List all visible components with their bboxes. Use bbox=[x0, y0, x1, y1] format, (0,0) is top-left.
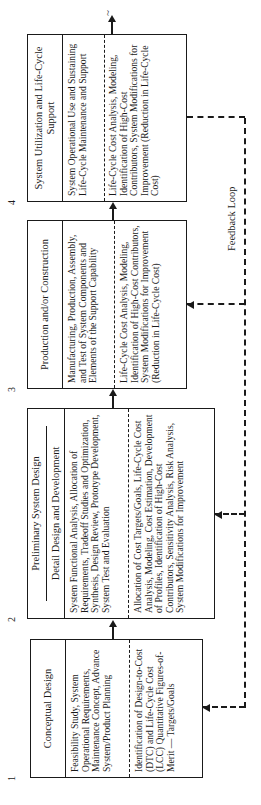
stage-box-conceptual-design: Conceptual Design Feasibility Study, Sys… bbox=[30, 639, 203, 778]
stage-box-preliminary-system-design: Preliminary System Design Detail Design … bbox=[27, 408, 215, 619]
arrow-3-to-4 bbox=[112, 208, 114, 220]
stage-activities: System Functional Analysis, Allocation o… bbox=[69, 413, 111, 613]
stage-title-text: Production and/or Construction bbox=[39, 239, 51, 370]
stage-title-text: System Utilization and Life-Cycle Suppor… bbox=[33, 35, 57, 201]
stage-number-4: 4 bbox=[6, 200, 17, 205]
stage-title: System Utilization and Life-Cycle Suppor… bbox=[28, 35, 63, 201]
arrow-2-to-3 bbox=[112, 395, 114, 408]
section-divider bbox=[104, 35, 105, 201]
stage-cost-activities: Life-Cycle Cost Analysis, Modeling, Iden… bbox=[108, 39, 161, 196]
arrowhead-icon bbox=[187, 301, 194, 309]
section-divider bbox=[128, 409, 129, 618]
feedback-loop-line bbox=[244, 118, 246, 708]
stage-cost-activities: Identification of Design-to-Cost (DTC) a… bbox=[134, 644, 176, 772]
section-divider bbox=[114, 221, 115, 388]
stage-activities: Manufacturing, Production, Assembly, and… bbox=[67, 225, 99, 383]
stage-cost-activities: Allocation of Cost Targets/Goals, Life-C… bbox=[133, 413, 186, 613]
stage-title-text: Conceptual Design bbox=[42, 669, 54, 748]
stage-box-system-utilization: System Utilization and Life-Cycle Suppor… bbox=[27, 34, 187, 202]
arrow-1-to-2 bbox=[112, 625, 114, 639]
feedback-connector-3 bbox=[187, 303, 245, 305]
stage-number-3: 3 bbox=[6, 387, 17, 392]
life-cycle-diagram: 1 2 3 4 Conceptual Design Feasibility St… bbox=[0, 0, 261, 805]
arrowhead-icon bbox=[203, 704, 210, 712]
arrow-out bbox=[111, 20, 113, 34]
stage-title: Production and/or Construction bbox=[28, 221, 63, 388]
stage-box-production-construction: Production and/or Construction Manufactu… bbox=[27, 220, 187, 389]
arrowhead-icon bbox=[109, 620, 117, 627]
arrowhead-icon bbox=[215, 511, 222, 519]
stage-title: Conceptual Design bbox=[31, 640, 66, 777]
stage-title: Preliminary System Design Detail Design … bbox=[28, 409, 65, 618]
stage-number-2: 2 bbox=[6, 617, 17, 622]
stage-activities: Feasibility Study, System Operational Re… bbox=[70, 644, 112, 772]
feedback-loop-label: Feedback Loop bbox=[226, 187, 237, 251]
stage-number-1: 1 bbox=[6, 776, 17, 781]
stage-title-text: Preliminary System Design bbox=[30, 456, 42, 570]
stage-subtitle-text: Detail Design and Development bbox=[46, 426, 62, 602]
arrowhead-icon bbox=[109, 202, 117, 209]
stage-activities: System Operational Use and Sustaining Li… bbox=[67, 39, 88, 196]
continuation-mark: ~ bbox=[101, 10, 113, 16]
arrowhead-icon bbox=[108, 15, 116, 22]
section-divider bbox=[129, 640, 130, 777]
arrowhead-icon bbox=[109, 389, 117, 396]
feedback-connector-4 bbox=[187, 116, 245, 118]
stage-cost-activities: Life-Cycle Cost Analysis, Modeling, Iden… bbox=[119, 225, 161, 383]
